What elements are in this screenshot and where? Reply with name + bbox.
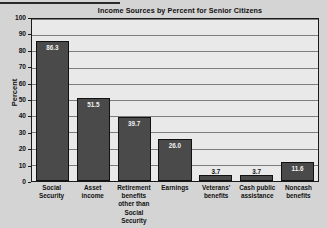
y-tick-label: 60 <box>0 80 26 87</box>
y-tick-label: 40 <box>0 112 26 119</box>
bar: 26.0 <box>158 139 191 181</box>
x-category-label-line: Cash public <box>238 184 276 192</box>
bar-slot: 86.3 <box>36 19 69 181</box>
y-tick-label: 50 <box>0 96 26 103</box>
bar-value-label: 11.6 <box>282 165 313 172</box>
x-category-label: Veterans'benefits <box>197 184 235 228</box>
bar-value-label: 39.7 <box>119 120 150 127</box>
bar-value-label: 3.7 <box>200 168 231 175</box>
bar-value-label: 51.5 <box>78 101 109 108</box>
x-category-label-line: Noncash <box>279 184 317 192</box>
bar-value-label: 26.0 <box>159 142 190 149</box>
bar: 86.3 <box>36 41 69 181</box>
x-axis-category-labels: SocialSecurityAssetincomeRetirementbenef… <box>31 184 319 228</box>
x-category-label: SocialSecurity <box>33 184 71 228</box>
bar-slot: 3.7 <box>240 19 273 181</box>
x-category-label: Earnings <box>156 184 194 228</box>
bar-value-label: 86.3 <box>37 44 68 51</box>
bar: 3.7 <box>199 175 232 181</box>
chart-page: Income Sources by Percent for Senior Cit… <box>0 0 327 228</box>
bar-slot: 3.7 <box>199 19 232 181</box>
bar: 11.6 <box>281 162 314 181</box>
bar-slot: 51.5 <box>77 19 110 181</box>
bar-slot: 39.7 <box>118 19 151 181</box>
bar: 39.7 <box>118 117 151 181</box>
x-category-label-line: benefits <box>197 192 235 200</box>
x-category-label-line: Social <box>33 184 71 192</box>
x-category-label-line: other than <box>115 200 153 208</box>
bar-series: 86.351.539.726.03.73.711.6 <box>32 19 318 181</box>
x-category-label-line: Social Security <box>115 209 153 225</box>
bar-slot: 11.6 <box>281 19 314 181</box>
y-tick-label: 80 <box>0 47 26 54</box>
y-tick-label: 0 <box>0 178 26 185</box>
y-tick-label: 30 <box>0 129 26 136</box>
y-tick-mark <box>28 182 31 183</box>
plot-area: 86.351.539.726.03.73.711.6 <box>31 18 319 182</box>
x-category-label-line: Security <box>33 192 71 200</box>
y-tick-label: 90 <box>0 30 26 37</box>
bar-slot: 26.0 <box>158 19 191 181</box>
chart-title: Income Sources by Percent for Senior Cit… <box>40 6 320 15</box>
x-category-label-line: Earnings <box>156 184 194 192</box>
x-category-label: Assetincome <box>74 184 112 228</box>
x-category-label-line: income <box>74 192 112 200</box>
bar: 51.5 <box>77 98 110 181</box>
y-tick-label: 70 <box>0 63 26 70</box>
x-category-label: Noncashbenefits <box>279 184 317 228</box>
bar: 3.7 <box>240 175 273 181</box>
top-rule-decoration <box>0 2 120 4</box>
bar-value-label: 3.7 <box>241 168 272 175</box>
x-category-label-line: Veterans' <box>197 184 235 192</box>
x-category-label-line: Retirement <box>115 184 153 192</box>
x-category-label-line: assistance <box>238 192 276 200</box>
x-category-label: Retirementbenefitsother thanSocial Secur… <box>115 184 153 228</box>
x-category-label-line: Asset <box>74 184 112 192</box>
x-category-label: Cash publicassistance <box>238 184 276 228</box>
y-tick-label: 100 <box>0 14 26 21</box>
y-tick-label: 20 <box>0 145 26 152</box>
x-category-label-line: benefits <box>115 192 153 200</box>
y-tick-label: 10 <box>0 162 26 169</box>
x-category-label-line: benefits <box>279 192 317 200</box>
